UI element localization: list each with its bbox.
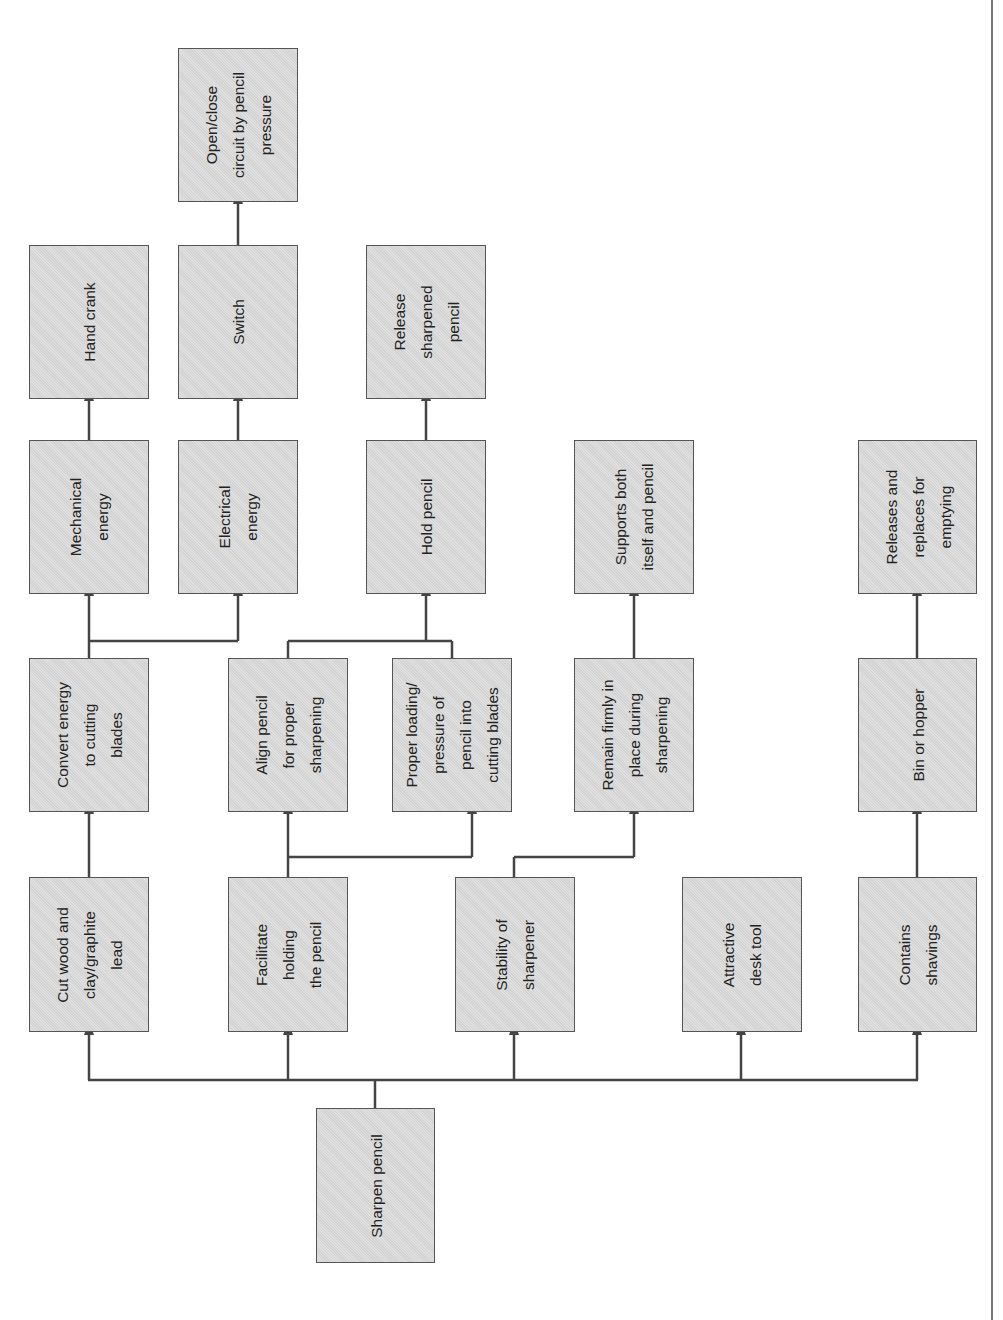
box-attractive-desk-tool: Attractive desk tool (682, 877, 802, 1032)
box-label: Releases and replaces for emptying (877, 442, 958, 592)
box-proper-loading: Proper loading/ pressure of pencil into … (392, 658, 512, 812)
box-switch: Switch (178, 245, 298, 399)
box-mechanical-energy: Mechanical energy (29, 440, 149, 594)
box-label: Mechanical energy (62, 442, 116, 592)
box-hold-pencil: Hold pencil (366, 440, 486, 594)
box-label: Cut wood and clay/graphite lead (49, 880, 130, 1030)
box-releases-and-replaces: Releases and replaces for emptying (858, 440, 977, 594)
box-label: Hold pencil (413, 442, 440, 592)
page-border-line (991, 0, 993, 1320)
box-label: Supports both itself and pencil (607, 442, 661, 592)
box-label: Contains shavings (891, 880, 945, 1030)
box-label: Convert energy to cutting blades (49, 660, 130, 810)
box-label: Align pencil for proper sharpening (248, 660, 329, 810)
box-bin-or-hopper: Bin or hopper (858, 658, 977, 812)
box-label: Open/close circuit by pencil pressure (198, 50, 279, 200)
box-label: Electrical energy (211, 442, 265, 592)
box-open-close-circuit: Open/close circuit by pencil pressure (178, 48, 298, 202)
box-label: Proper loading/ pressure of pencil into … (398, 660, 506, 810)
box-facilitate-holding: Facilitate holding the pencil (228, 877, 348, 1032)
box-supports-both: Supports both itself and pencil (574, 440, 694, 594)
box-label: Facilitate holding the pencil (248, 880, 329, 1030)
box-cut-wood: Cut wood and clay/graphite lead (29, 877, 149, 1032)
box-stability: Stability of sharpener (455, 877, 575, 1032)
box-label: Bin or hopper (904, 660, 931, 810)
box-align-pencil: Align pencil for proper sharpening (228, 658, 348, 812)
box-label: Attractive desk tool (715, 880, 769, 1030)
box-contains-shavings: Contains shavings (858, 877, 977, 1032)
box-label: Sharpen pencil (362, 1111, 389, 1261)
box-release-sharpened-pencil: Release sharpened pencil (366, 245, 486, 399)
box-label: Switch (225, 247, 252, 397)
box-remain-firmly: Remain firmly in place during sharpening (574, 658, 694, 812)
box-label: Hand crank (76, 247, 103, 397)
box-hand-crank: Hand crank (29, 245, 149, 399)
box-sharpen-pencil: Sharpen pencil (316, 1108, 435, 1263)
box-label: Stability of sharpener (488, 880, 542, 1030)
box-label: Remain firmly in place during sharpening (594, 660, 675, 810)
box-convert-energy: Convert energy to cutting blades (29, 658, 149, 812)
box-label: Release sharpened pencil (386, 247, 467, 397)
box-electrical-energy: Electrical energy (178, 440, 298, 594)
